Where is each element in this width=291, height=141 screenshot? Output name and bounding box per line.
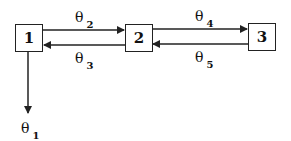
node-3: 3 <box>248 23 276 51</box>
arrows-layer <box>0 0 291 141</box>
node-3-label: 3 <box>257 28 267 46</box>
edge-label-theta-2: θ2 <box>75 10 93 28</box>
edge-label-theta-4: θ4 <box>195 9 213 27</box>
node-2: 2 <box>125 24 153 52</box>
node-1-label: 1 <box>24 29 34 47</box>
edge-label-theta-1: θ1 <box>21 121 39 139</box>
node-1: 1 <box>15 24 43 52</box>
compartment-diagram: 1 2 3 θ2 θ3 θ4 θ5 θ1 <box>0 0 291 141</box>
node-2-label: 2 <box>134 29 144 47</box>
edge-label-theta-5: θ5 <box>195 50 213 68</box>
edge-label-theta-3: θ3 <box>75 51 93 69</box>
